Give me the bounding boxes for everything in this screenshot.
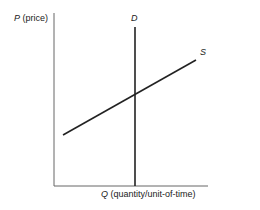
x-axis-symbol: Q xyxy=(101,189,108,199)
y-axis-label: P (price) xyxy=(14,13,48,23)
y-axis-text: (price) xyxy=(23,13,49,23)
supply-label: S xyxy=(200,47,206,57)
supply-line xyxy=(63,60,196,135)
demand-label: D xyxy=(131,13,138,23)
y-axis-symbol: P xyxy=(14,13,20,23)
diagram-canvas xyxy=(0,0,260,210)
x-axis-text: (quantity/unit-of-time) xyxy=(111,189,196,199)
x-axis-label: Q (quantity/unit-of-time) xyxy=(101,189,196,199)
